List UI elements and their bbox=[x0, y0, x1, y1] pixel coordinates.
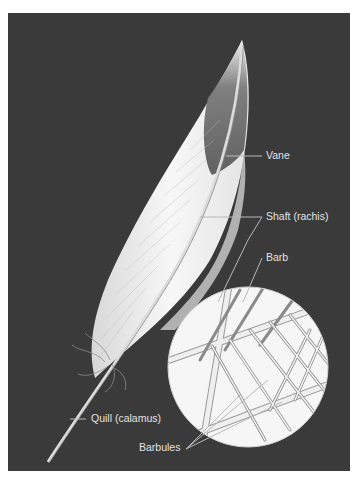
magnified-barbs-inset bbox=[168, 280, 345, 460]
label-barbules: Barbules bbox=[139, 442, 180, 453]
feather-illustration bbox=[0, 0, 360, 482]
label-quill-calamus: Quill (calamus) bbox=[91, 413, 161, 424]
label-vane: Vane bbox=[266, 150, 290, 161]
label-barb: Barb bbox=[266, 252, 288, 263]
label-shaft-rachis: Shaft (rachis) bbox=[266, 211, 328, 222]
